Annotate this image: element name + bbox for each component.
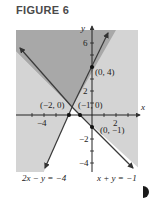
point-m1-0 [78,113,82,117]
tick-label-y-m4: −4 [79,158,89,168]
tick-label-y-6: 6 [83,38,88,48]
point-0-m1 [90,125,94,129]
x-axis-label: x [140,102,145,112]
region-plot: y x 6 2 −2 −4 −4 2 (0, 4) (−2, 0) (−1, 0… [0,0,154,206]
point-label-m1-0: (−1, 0) [78,100,103,110]
y-axis-label: y [80,23,85,33]
point-label-m2-0: (−2, 0) [40,100,65,110]
line-label-x-plus-y: x + y = −1 [96,173,137,183]
point-0-4 [90,65,94,69]
point-label-0-m1: (0, −1) [100,125,125,135]
tick-label-x-m4: −4 [37,118,47,128]
line-label-2x-minus-y: 2x − y = −4 [22,173,67,183]
point-m2-0 [67,113,71,117]
tick-label-y-2: 2 [83,86,88,96]
tick-label-y-m2: −2 [79,134,89,144]
point-label-0-4: (0, 4) [95,67,115,77]
